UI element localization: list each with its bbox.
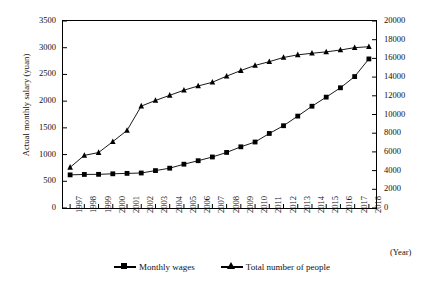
x-axis-tick-label: 2018 <box>373 196 383 213</box>
chart-legend: Monthly wages Total number of people <box>0 262 444 272</box>
x-axis-tick-label: 2003 <box>159 196 169 213</box>
legend-item-total-number-of-people[interactable]: Total number of people <box>221 262 330 272</box>
x-axis-tick-label: 2011 <box>273 196 283 213</box>
x-axis-tick-label: 2014 <box>316 196 326 213</box>
x-axis-tick-label: 1999 <box>103 196 113 213</box>
x-axis-tick-label: 2013 <box>302 196 312 213</box>
legend-item-monthly-wages[interactable]: Monthly wages <box>114 262 195 272</box>
x-axis-tick-label: 2016 <box>344 196 354 213</box>
chart-figure: Actual monthly salary (yuan) Number of p… <box>0 0 444 284</box>
x-axis-tick-label: 2002 <box>145 196 155 213</box>
x-axis-tick-label: 2006 <box>202 196 212 213</box>
legend-marker-square-icon <box>114 266 136 268</box>
x-axis-tick-label: 2007 <box>216 196 226 213</box>
x-axis-tick-label: 2012 <box>288 196 298 213</box>
x-axis-tick-label: 2010 <box>259 196 269 213</box>
legend-marker-triangle-icon <box>221 266 243 268</box>
x-axis-tick-label: 2009 <box>245 196 255 213</box>
x-axis-tick-label: 2001 <box>131 196 141 213</box>
x-axis-tick-label: 2000 <box>117 196 127 213</box>
x-axis-tick-label: 2004 <box>174 196 184 213</box>
x-axis-tick-label: 1998 <box>88 196 98 213</box>
x-axis-tick-label: 2015 <box>330 196 340 213</box>
x-axis-ticks: 1997199819992000200120022003200420052006… <box>0 0 444 284</box>
legend-label: Monthly wages <box>139 262 195 272</box>
x-axis-tick-label: 2017 <box>359 196 369 213</box>
x-axis-tick-label: 2008 <box>231 196 241 213</box>
legend-label: Total number of people <box>246 262 330 272</box>
x-axis-tick-label: 2005 <box>188 196 198 213</box>
x-axis-unit-label: (Year) <box>390 247 411 257</box>
x-axis-tick-label: 1997 <box>74 196 84 213</box>
